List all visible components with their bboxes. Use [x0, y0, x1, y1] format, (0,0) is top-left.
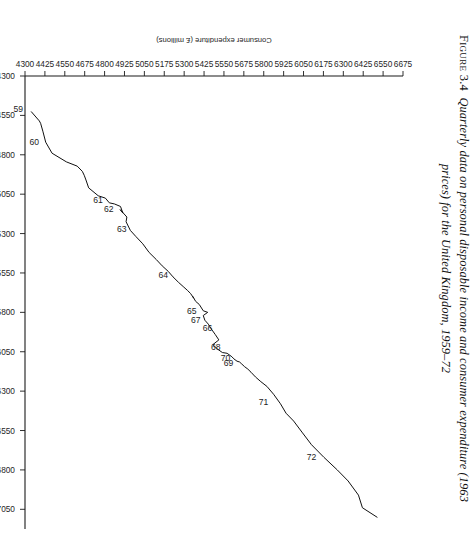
y-tick-label: 6050 — [294, 59, 313, 69]
y-tick-label: 4425 — [36, 59, 55, 69]
y-tick-label: 6300 — [334, 59, 353, 69]
year-label-72: 72 — [307, 452, 317, 462]
year-label-63: 63 — [117, 224, 127, 234]
y-tick-label: 4550 — [56, 59, 75, 69]
y-tick-label: 5800 — [255, 59, 274, 69]
y-axis-title: Consumer expenditure (£ millions) — [156, 36, 272, 45]
year-label-68: 68 — [211, 342, 221, 352]
x-tick-label: 5300 — [0, 229, 15, 239]
x-tick-label: 5800 — [0, 307, 15, 317]
y-tick-label: 4675 — [75, 59, 94, 69]
x-tick-label: 5050 — [0, 189, 15, 199]
scatter-line-chart: 4300455048005050530055505800605063006550… — [0, 0, 415, 537]
year-label-71: 71 — [259, 397, 269, 407]
y-tick-label: 5925 — [274, 59, 293, 69]
year-label-61: 61 — [93, 195, 103, 205]
caption-line-1: Figure 3.4 Quarterly data on personal di… — [454, 0, 472, 537]
caption-text-1: Quarterly data on personal disposable in… — [457, 97, 471, 502]
year-label-67: 67 — [191, 315, 201, 325]
year-label-66: 66 — [203, 323, 213, 333]
y-tick-label: 5050 — [135, 59, 154, 69]
y-tick-label: 4925 — [115, 59, 134, 69]
axes-group — [25, 76, 403, 529]
y-tick-label: 6175 — [314, 59, 333, 69]
y-tick-label: 5425 — [195, 59, 214, 69]
x-tick-label: 6050 — [0, 347, 15, 357]
figure-number: Figure 3.4 — [457, 35, 471, 91]
x-tick-label: 7050 — [0, 504, 15, 514]
y-tick-label: 5175 — [155, 59, 174, 69]
x-tick-label: 4300 — [0, 71, 15, 81]
caption-line-2: prices) for the United Kingdom, 1959–72 — [437, 0, 455, 537]
x-tick-label: 4800 — [0, 150, 15, 160]
data-series-group — [31, 112, 377, 517]
data-line-uk-income-expenditure — [31, 112, 377, 517]
year-label-70: 70 — [221, 353, 231, 363]
y-tick-label: 4800 — [95, 59, 114, 69]
year-label-62: 62 — [104, 204, 114, 214]
y-tick-label: 6550 — [374, 59, 393, 69]
y-tick-label: 5675 — [235, 59, 254, 69]
year-label-59: 59 — [14, 104, 24, 114]
y-tick-label: 4300 — [16, 59, 35, 69]
y-tick-label: 5550 — [215, 59, 234, 69]
x-tick-label: 6800 — [0, 465, 15, 475]
y-axis-ticks: 4300442545504675480049255050517553005425… — [16, 59, 413, 76]
x-tick-label: 6300 — [0, 386, 15, 396]
y-tick-label: 5300 — [175, 59, 194, 69]
figure-caption: Figure 3.4 Quarterly data on personal di… — [416, 0, 472, 537]
x-axis-ticks: 4300455048005050530055505800605063006550… — [0, 71, 25, 514]
x-tick-label: 5550 — [0, 268, 15, 278]
plot-area-rotated: 4300455048005050530055505800605063006550… — [0, 0, 415, 537]
year-label-60: 60 — [30, 137, 40, 147]
x-tick-label: 6550 — [0, 426, 15, 436]
y-tick-label: 6425 — [354, 59, 373, 69]
figure-page: 4300455048005050530055505800605063006550… — [0, 0, 473, 537]
y-tick-label: 6675 — [394, 59, 413, 69]
year-label-64: 64 — [158, 270, 168, 280]
